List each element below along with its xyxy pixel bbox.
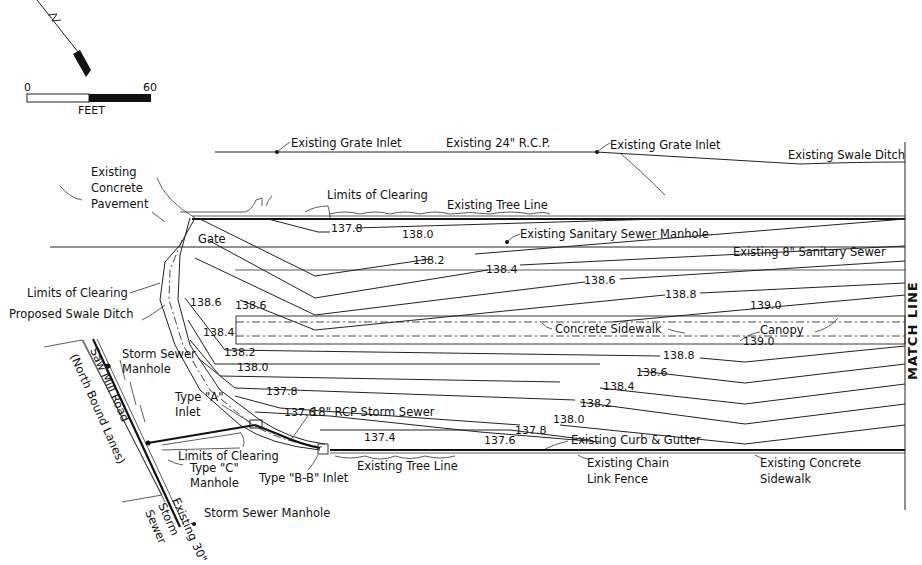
limits-of-clearing-top-label: Limits of Clearing xyxy=(327,188,428,202)
elev-138-8-lower-b: 138.8 xyxy=(663,349,695,362)
elev-137-4-lower: 137.4 xyxy=(364,431,396,444)
storm-sewer-manhole-bottom-label: Storm Sewer Manhole xyxy=(204,506,330,520)
existing-concrete-pavement-label-2: Concrete xyxy=(91,181,143,195)
elev-138-2-lower: 138.2 xyxy=(224,346,256,359)
type-c-manhole-label-2: Manhole xyxy=(190,476,239,490)
limits-of-clearing-left-label: Limits of Clearing xyxy=(27,286,128,300)
type-a-inlet-label-2: Inlet xyxy=(175,405,201,419)
storm-sewer-manhole-top-label-1: Storm Sewer xyxy=(122,347,196,361)
scale-bar: 0 60 FEET xyxy=(24,81,157,117)
north-arrow xyxy=(37,0,91,77)
elev-139-0-canopy: 139.0 xyxy=(743,335,775,348)
elev-138-6-lower-b: 138.6 xyxy=(636,366,668,379)
type-c-manhole-icon xyxy=(146,441,151,446)
north-letter-glyph xyxy=(48,14,61,21)
existing-concrete-sidewalk-label-2: Sidewalk xyxy=(760,472,812,486)
elev-138-2-upper: 138.2 xyxy=(413,254,445,267)
existing-tree-line-top-label: Existing Tree Line xyxy=(447,198,548,212)
existing-grate-inlet-label-2: Existing Grate Inlet xyxy=(610,138,721,152)
elev-138-0-lower-b: 138.0 xyxy=(553,413,585,426)
match-line-label: MATCH LINE xyxy=(905,281,920,380)
existing-chain-link-fence-label-2: Link Fence xyxy=(587,472,648,486)
existing-concrete-pavement-label-1: Existing xyxy=(91,165,137,179)
rcp-storm-sewer-label: 18" RCP Storm Sewer xyxy=(311,405,435,419)
elev-138-6-upper: 138.6 xyxy=(584,274,616,287)
type-a-inlet-label-1: Type "A" xyxy=(174,390,224,404)
existing-tree-line-bottom-label: Existing Tree Line xyxy=(357,459,458,473)
elev-137-8-lower: 137.8 xyxy=(266,385,298,398)
elev-138-6-left-b: 138.6 xyxy=(235,299,267,312)
existing-24-rcp-label: Existing 24" R.C.P. xyxy=(446,136,551,150)
elev-138-4-lower-b: 138.4 xyxy=(603,380,635,393)
storm-sewer-manhole-top-label-2: Manhole xyxy=(122,362,171,376)
gate-label: Gate xyxy=(198,232,226,246)
storm-sewer-manhole-icon xyxy=(106,364,111,369)
existing-swale-ditch-label: Existing Swale Ditch xyxy=(788,148,905,162)
elev-138-4-upper: 138.4 xyxy=(486,263,518,276)
elev-138-6-left-a: 138.6 xyxy=(190,296,222,309)
elev-137-8-lower-b: 137.8 xyxy=(515,424,547,437)
elev-137-6-lower-b: 137.6 xyxy=(484,434,516,447)
elev-137-8-upper: 137.8 xyxy=(331,222,363,235)
scale-start-label: 0 xyxy=(24,81,31,94)
concrete-sidewalk-label: Concrete Sidewalk xyxy=(555,322,662,336)
elev-138-2-lower-b: 138.2 xyxy=(580,397,612,410)
scale-end-label: 60 xyxy=(143,81,157,94)
elev-138-0-lower: 138.0 xyxy=(237,361,269,374)
proposed-swale-ditch-label: Proposed Swale Ditch xyxy=(9,307,133,321)
elev-139-0-upper: 139.0 xyxy=(750,299,782,312)
existing-grate-inlet-label-1: Existing Grate Inlet xyxy=(291,136,402,150)
lower-contours xyxy=(185,298,905,444)
existing-concrete-pavement-label-3: Pavement xyxy=(91,197,149,211)
type-bb-inlet-label: Type "B-B" Inlet xyxy=(258,471,349,485)
existing-8-sanitary-sewer-label: Existing 8" Sanitary Sewer xyxy=(733,245,886,259)
elev-138-8-upper: 138.8 xyxy=(665,288,697,301)
existing-chain-link-fence-label-1: Existing Chain xyxy=(587,456,669,470)
existing-concrete-sidewalk-label-1: Existing Concrete xyxy=(760,456,861,470)
elev-138-0-upper: 138.0 xyxy=(402,228,434,241)
storm-sewer-manhole-icon xyxy=(192,522,196,526)
scale-unit-label: FEET xyxy=(78,104,105,117)
existing-sanitary-sewer-manhole-label: Existing Sanitary Sewer Manhole xyxy=(520,227,709,241)
site-plan-drawing: 0 60 FEET Existing Grate Inlet Existing … xyxy=(0,0,922,565)
north-arrow-head-icon xyxy=(73,50,91,77)
type-c-manhole-label-1: Type "C" xyxy=(189,461,239,475)
existing-curb-gutter-label: Existing Curb & Gutter xyxy=(571,433,701,447)
